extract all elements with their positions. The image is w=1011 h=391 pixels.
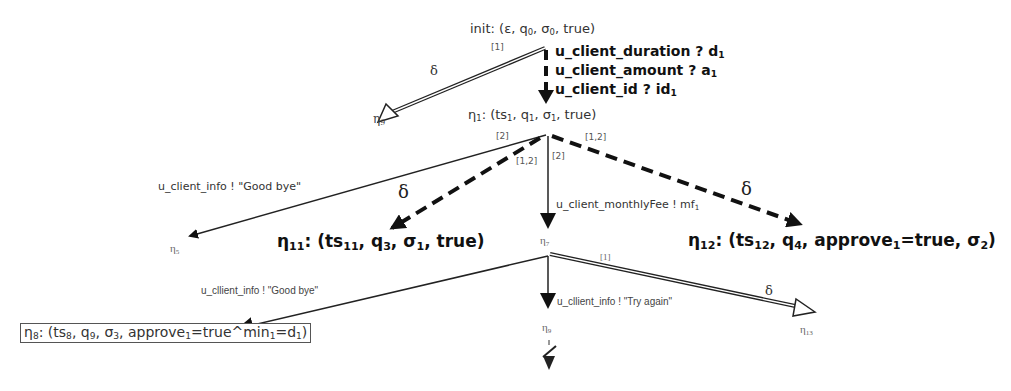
state-eta5: η5 bbox=[170, 243, 179, 256]
edge-label-init-eta9: δ bbox=[430, 64, 438, 77]
edge-label-eta1-eta5: u_client_info ! "Good bye" bbox=[158, 181, 301, 192]
edge-label-eta7-eta9: u_cllient_info ! "Try again" bbox=[557, 297, 672, 307]
init-state-label: init: (ε, q0, σ0, true) bbox=[470, 22, 595, 37]
edge-eta1-to-eta11 bbox=[392, 138, 540, 228]
edge-tag-eta1-eta11: [1,2] bbox=[516, 157, 537, 166]
edge-label-eta1-eta12: δ bbox=[741, 180, 752, 198]
edge-tag-init-eta9: [1] bbox=[491, 43, 504, 52]
state-eta12: η12: (ts12, q4, approve1=true, σ2) bbox=[688, 232, 996, 251]
edge-tag-eta1-eta5: [2] bbox=[496, 132, 509, 141]
state-eta9-top: η9 bbox=[373, 113, 385, 127]
edge-tag-eta1-eta7: [2] bbox=[552, 152, 565, 161]
edge-init-to-eta1 bbox=[538, 50, 554, 104]
edge-label-eta7-eta8: u_cllient_info ! "Good bye" bbox=[201, 286, 318, 296]
state-eta8: η8: (ts8, q9, σ3, approve1=true^min1=d1) bbox=[20, 323, 311, 343]
input-action-amount: u_client_amount ? a1 bbox=[555, 63, 717, 79]
state-eta1: η1: (ts1, q1, σ1, true) bbox=[468, 108, 596, 123]
input-action-id: u_client_id ? id1 bbox=[555, 82, 677, 98]
edge-label-eta1-eta7: u_client_monthlyFee ! mf1 bbox=[556, 199, 699, 211]
state-eta13: η13 bbox=[800, 324, 813, 337]
state-eta11: η11: (ts11, q3, σ1, true) bbox=[277, 233, 484, 252]
state-eta7: η7 bbox=[540, 235, 549, 248]
deadlock-icon bbox=[543, 340, 556, 370]
edge-label-eta1-eta11: δ bbox=[398, 183, 409, 201]
edge-tag-eta1-eta12: [1,2] bbox=[585, 133, 606, 142]
state-eta9-bottom: η9 bbox=[542, 322, 551, 335]
edge-tag-eta7-eta13: [1] bbox=[600, 253, 611, 262]
edge-label-eta7-eta13: δ bbox=[765, 284, 773, 297]
input-action-duration: u_client_duration ? d1 bbox=[555, 44, 725, 60]
